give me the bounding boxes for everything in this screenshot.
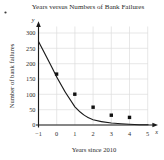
y-tick-label: 300 [26, 29, 35, 36]
x-tick-label: 2 [92, 130, 95, 137]
data-point [128, 116, 131, 119]
data-point [73, 93, 76, 96]
chart-figure: Years versus Numbers of Bank Failures [0, 0, 164, 160]
exponential-fit-curve [39, 42, 149, 125]
x-tick-labels: −1 0 1 2 3 4 5 [35, 130, 149, 137]
data-point [110, 114, 113, 117]
x-tick-label: 3 [110, 130, 113, 137]
y-tick-label: 200 [26, 60, 35, 67]
y-tick-label: 150 [26, 75, 35, 82]
x-tick-label: −1 [35, 130, 42, 137]
y-tick-label: 250 [26, 45, 35, 52]
y-axis [36, 21, 41, 127]
y-axis-title: Number of bank failures [8, 43, 15, 108]
y-tick-label: 50 [29, 106, 35, 113]
x-tick-label: 1 [73, 130, 76, 137]
y-axis-variable-label: y [31, 16, 35, 23]
data-point [91, 106, 94, 109]
y-tick-label: 0 [32, 121, 35, 128]
x-tick-label: 5 [146, 130, 149, 137]
y-tick-labels: 0 50 100 150 200 250 300 [26, 29, 35, 128]
x-tick-label: 4 [128, 130, 132, 137]
x-gridlines [57, 27, 148, 126]
data-point [55, 72, 58, 75]
y-tick-label: 100 [26, 91, 35, 98]
chart-title: Years versus Numbers of Bank Failures [32, 3, 145, 11]
x-axis-title: Years since 2010 [72, 146, 117, 153]
x-tick-label: 0 [55, 130, 58, 137]
bullet-dot-icon [4, 11, 6, 13]
x-axis-variable-label: x [154, 128, 158, 135]
bank-failures-chart: Years versus Numbers of Bank Failures [0, 0, 164, 160]
